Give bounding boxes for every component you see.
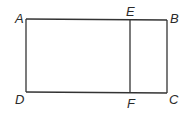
label-c: C <box>169 92 179 107</box>
label-a: A <box>14 11 24 26</box>
label-e: E <box>126 4 135 19</box>
segment-cd <box>26 92 167 93</box>
label-f: F <box>127 96 136 111</box>
rectangle-diagram: A E B D F C <box>0 0 189 115</box>
segment-ab <box>26 19 167 20</box>
label-b: B <box>170 11 179 26</box>
label-d: D <box>15 92 24 107</box>
